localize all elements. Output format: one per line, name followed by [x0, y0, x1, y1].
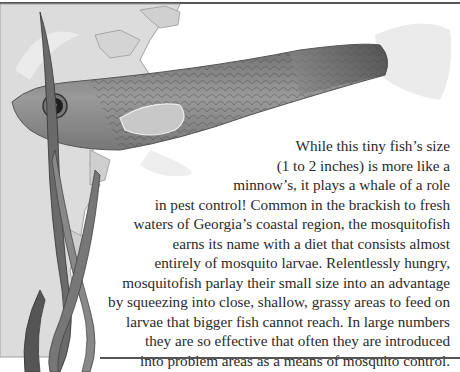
text-line: minnow’s, it plays a whale of a role: [90, 175, 450, 195]
text-line: by squeezing into close, shallow, grassy…: [90, 292, 450, 312]
text-line: mosquitofish parlay their small size int…: [90, 273, 450, 293]
text-line: (1 to 2 inches) is more like a: [90, 156, 450, 176]
text-line: into problem areas as a means of mosquit…: [90, 351, 450, 371]
text-line: waters of Georgia’s coastal region, the …: [90, 214, 450, 234]
text-line: earns its name with a diet that consists…: [90, 234, 450, 254]
text-line: they are so effective that often they ar…: [90, 331, 450, 351]
text-line: in pest control! Common in the brackish …: [90, 195, 450, 215]
article-body: While this tiny fish’s size (1 to 2 inch…: [90, 136, 450, 370]
text-line: entirely of mosquito larvae. Relentlessl…: [90, 253, 450, 273]
bottom-rule: [100, 357, 460, 359]
text-line: larvae that bigger fish cannot reach. In…: [90, 312, 450, 332]
text-line: While this tiny fish’s size: [90, 136, 450, 156]
